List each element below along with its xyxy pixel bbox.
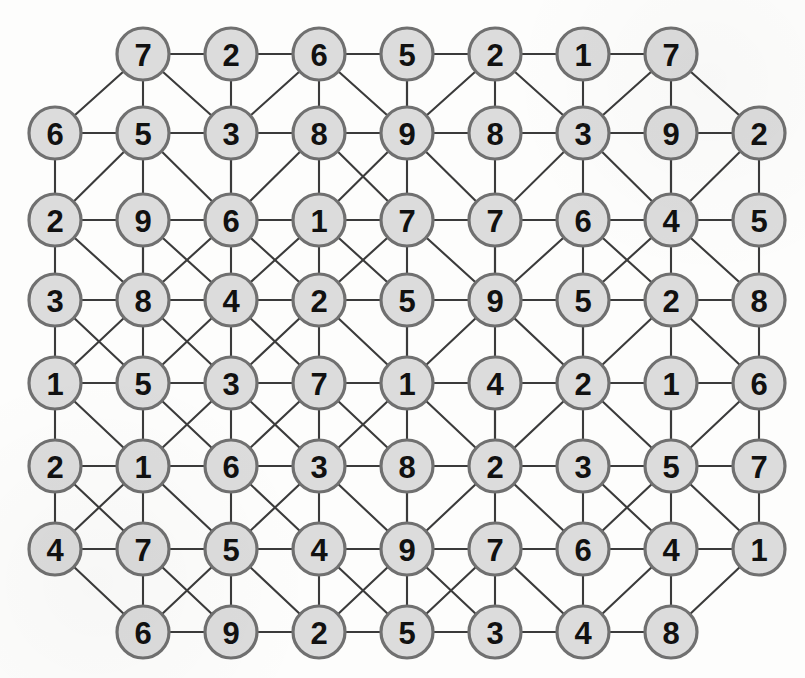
node-value-label: 8 — [750, 284, 767, 319]
graph-node[interactable]: 1 — [557, 28, 609, 80]
graph-node[interactable]: 5 — [205, 523, 257, 575]
graph-node[interactable]: 1 — [645, 357, 697, 409]
node-value-label: 1 — [398, 367, 415, 402]
node-value-label: 5 — [134, 117, 151, 152]
graph-node[interactable]: 9 — [645, 107, 697, 159]
node-value-label: 6 — [574, 204, 591, 239]
node-value-label: 3 — [222, 367, 239, 402]
graph-node[interactable]: 5 — [645, 440, 697, 492]
graph-canvas: 7265217653898392296177645384259528153714… — [0, 0, 805, 678]
node-value-label: 1 — [310, 204, 327, 239]
node-value-label: 2 — [574, 367, 591, 402]
node-value-label: 4 — [486, 367, 504, 402]
node-value-label: 8 — [398, 450, 415, 485]
graph-node[interactable]: 9 — [381, 523, 433, 575]
graph-node[interactable]: 4 — [469, 357, 521, 409]
graph-node[interactable]: 9 — [469, 274, 521, 326]
graph-node[interactable]: 8 — [469, 107, 521, 159]
graph-node[interactable]: 6 — [117, 606, 169, 658]
graph-node[interactable]: 7 — [733, 440, 785, 492]
graph-node[interactable]: 6 — [733, 357, 785, 409]
node-value-label: 2 — [486, 450, 503, 485]
graph-node[interactable]: 4 — [645, 194, 697, 246]
graph-node[interactable]: 3 — [557, 107, 609, 159]
graph-node[interactable]: 1 — [293, 194, 345, 246]
graph-node[interactable]: 7 — [381, 194, 433, 246]
graph-node[interactable]: 8 — [645, 606, 697, 658]
graph-node[interactable]: 2 — [293, 606, 345, 658]
graph-node[interactable]: 9 — [117, 194, 169, 246]
node-value-label: 5 — [222, 533, 239, 568]
node-value-label: 1 — [46, 367, 63, 402]
graph-node[interactable]: 5 — [557, 274, 609, 326]
graph-node[interactable]: 1 — [117, 440, 169, 492]
graph-node[interactable]: 9 — [381, 107, 433, 159]
graph-node[interactable]: 7 — [469, 194, 521, 246]
node-value-label: 7 — [310, 367, 327, 402]
node-value-label: 5 — [398, 38, 415, 73]
node-value-label: 5 — [398, 616, 415, 651]
node-value-label: 9 — [398, 117, 415, 152]
graph-node[interactable]: 6 — [29, 107, 81, 159]
graph-node[interactable]: 2 — [469, 28, 521, 80]
graph-node[interactable]: 5 — [733, 194, 785, 246]
graph-node[interactable]: 8 — [733, 274, 785, 326]
graph-node[interactable]: 7 — [645, 28, 697, 80]
graph-node[interactable]: 8 — [381, 440, 433, 492]
graph-node[interactable]: 1 — [733, 523, 785, 575]
node-value-label: 7 — [398, 204, 415, 239]
node-value-label: 7 — [134, 533, 151, 568]
graph-node[interactable]: 2 — [645, 274, 697, 326]
node-value-label: 9 — [662, 117, 679, 152]
graph-node[interactable]: 4 — [557, 606, 609, 658]
graph-node[interactable]: 2 — [469, 440, 521, 492]
node-value-label: 6 — [134, 616, 151, 651]
graph-node[interactable]: 9 — [205, 606, 257, 658]
graph-node[interactable]: 3 — [293, 440, 345, 492]
graph-node[interactable]: 8 — [117, 274, 169, 326]
graph-node[interactable]: 6 — [293, 28, 345, 80]
node-value-label: 5 — [574, 284, 591, 319]
graph-node[interactable]: 6 — [205, 194, 257, 246]
node-value-label: 6 — [222, 450, 239, 485]
graph-node[interactable]: 5 — [381, 274, 433, 326]
node-value-label: 3 — [310, 450, 327, 485]
graph-node[interactable]: 3 — [205, 107, 257, 159]
graph-node[interactable]: 2 — [557, 357, 609, 409]
node-value-label: 2 — [46, 450, 63, 485]
graph-node[interactable]: 4 — [29, 523, 81, 575]
node-value-label: 2 — [310, 284, 327, 319]
graph-node[interactable]: 2 — [293, 274, 345, 326]
graph-node[interactable]: 2 — [733, 107, 785, 159]
node-value-label: 8 — [662, 616, 679, 651]
graph-node[interactable]: 5 — [381, 606, 433, 658]
graph-node[interactable]: 7 — [469, 523, 521, 575]
node-value-label: 4 — [222, 284, 240, 319]
node-value-label: 2 — [46, 204, 63, 239]
graph-node[interactable]: 2 — [29, 440, 81, 492]
graph-node[interactable]: 8 — [293, 107, 345, 159]
graph-node[interactable]: 1 — [29, 357, 81, 409]
graph-node[interactable]: 5 — [381, 28, 433, 80]
graph-node[interactable]: 4 — [645, 523, 697, 575]
graph-node[interactable]: 2 — [205, 28, 257, 80]
graph-node[interactable]: 4 — [205, 274, 257, 326]
node-value-label: 4 — [310, 533, 328, 568]
graph-node[interactable]: 6 — [557, 523, 609, 575]
graph-node[interactable]: 3 — [469, 606, 521, 658]
graph-node[interactable]: 2 — [29, 194, 81, 246]
graph-node[interactable]: 3 — [29, 274, 81, 326]
node-value-label: 7 — [486, 533, 503, 568]
graph-node[interactable]: 3 — [557, 440, 609, 492]
graph-node[interactable]: 7 — [293, 357, 345, 409]
node-value-label: 1 — [750, 533, 767, 568]
graph-node[interactable]: 1 — [381, 357, 433, 409]
graph-node[interactable]: 6 — [205, 440, 257, 492]
graph-node[interactable]: 4 — [293, 523, 345, 575]
graph-node[interactable]: 5 — [117, 357, 169, 409]
graph-node[interactable]: 7 — [117, 28, 169, 80]
graph-node[interactable]: 3 — [205, 357, 257, 409]
graph-node[interactable]: 5 — [117, 107, 169, 159]
graph-node[interactable]: 6 — [557, 194, 609, 246]
graph-node[interactable]: 7 — [117, 523, 169, 575]
